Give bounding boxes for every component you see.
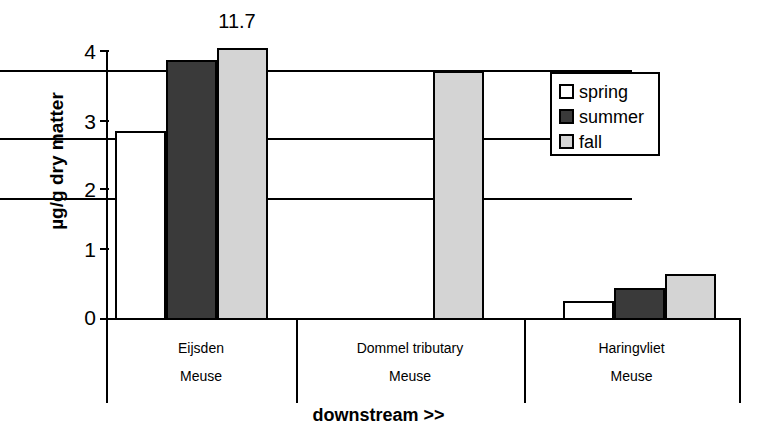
bar-dommel-fall[interactable]: [433, 71, 484, 320]
legend-swatch-fall-icon: [559, 134, 574, 149]
legend: spring summer fall: [550, 72, 660, 156]
bar-haringvliet-summer[interactable]: [614, 288, 665, 320]
category-label-eijsden: Eijsden: [106, 340, 296, 356]
bar-eijsden-spring[interactable]: [115, 131, 166, 320]
legend-swatch-summer-icon: [559, 109, 574, 124]
x-axis-title: downstream >>: [0, 405, 757, 426]
y-tick-label-2: 2: [62, 179, 96, 200]
category-separator-2: [524, 318, 526, 403]
legend-label-fall: fall: [579, 133, 602, 151]
legend-item-summer[interactable]: summer: [559, 104, 658, 129]
y-tick-label-0: 0: [62, 307, 96, 328]
category-river-eijsden: Meuse: [106, 368, 296, 384]
bar-value-label-eijsden-fall: 11.7: [197, 10, 277, 33]
category-label-dommel: Dommel tributary: [296, 340, 524, 356]
legend-label-summer: summer: [579, 108, 644, 126]
bar-haringvliet-fall[interactable]: [665, 274, 716, 320]
category-separator-left: [106, 318, 108, 403]
category-separator-right: [739, 318, 741, 403]
legend-item-spring[interactable]: spring: [559, 79, 658, 104]
category-river-dommel: Meuse: [296, 368, 524, 384]
bar-eijsden-fall[interactable]: [217, 48, 268, 320]
legend-label-spring: spring: [579, 83, 628, 101]
x-axis-baseline: [106, 318, 740, 320]
category-river-haringvliet: Meuse: [524, 368, 739, 384]
y-tick-label-3: 3: [62, 111, 96, 132]
legend-item-fall[interactable]: fall: [559, 129, 658, 154]
y-tick-label-1: 1: [62, 239, 96, 260]
bar-eijsden-summer[interactable]: [166, 60, 217, 320]
category-separator-1: [296, 318, 298, 403]
category-label-haringvliet: Haringvliet: [524, 340, 739, 356]
legend-swatch-spring-icon: [559, 84, 574, 99]
y-tick-label-4: 4: [62, 41, 96, 62]
bar-chart: µg/g dry matter 4 3 2 1 0 11.7 Eijsden M…: [0, 0, 757, 441]
